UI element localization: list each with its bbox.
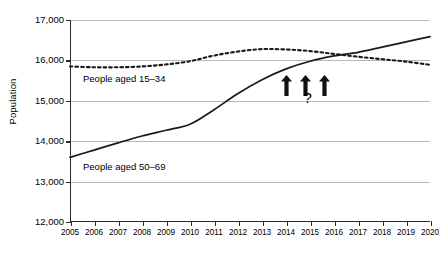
gridline: [71, 182, 430, 183]
gridline: [71, 141, 430, 142]
up-arrow-3-icon: [319, 75, 330, 96]
x-tick-mark: [71, 221, 72, 226]
y-axis-title: Population: [7, 62, 18, 142]
x-tick-mark: [287, 221, 288, 226]
y-tick-label: 12,000: [20, 217, 64, 227]
x-tick-mark: [95, 221, 96, 226]
y-tick-label: 16,000: [20, 55, 64, 65]
y-tick-label: 13,000: [20, 177, 64, 187]
y-tick-label: 14,000: [20, 136, 64, 146]
up-arrow-1-icon: [281, 75, 292, 96]
y-tick-mark: [66, 60, 71, 61]
x-tick-mark: [383, 221, 384, 226]
x-tick-label: 2020: [410, 228, 447, 237]
y-tick-mark: [66, 20, 71, 21]
y-tick-mark: [66, 182, 71, 183]
x-tick-mark: [431, 221, 432, 226]
y-tick-mark: [66, 141, 71, 142]
x-tick-mark: [263, 221, 264, 226]
x-tick-mark: [239, 221, 240, 226]
x-tick-mark: [167, 221, 168, 226]
x-tick-mark: [143, 221, 144, 226]
y-tick-label: 15,000: [20, 96, 64, 106]
series-label-people-aged-50-69: People aged 50–69: [83, 161, 165, 172]
y-tick-mark: [66, 101, 71, 102]
plot-area: [70, 20, 430, 222]
y-tick-label: 17,000: [20, 15, 64, 25]
x-tick-mark: [311, 221, 312, 226]
x-tick-mark: [407, 221, 408, 226]
y-axis-tick-labels: 17,00016,00015,00014,00013,00012,000: [20, 0, 64, 253]
x-tick-mark: [119, 221, 120, 226]
x-tick-mark: [215, 221, 216, 226]
x-tick-mark: [335, 221, 336, 226]
question-mark-annotation: ?: [304, 90, 312, 105]
gridline: [71, 20, 430, 21]
gridline: [71, 101, 430, 102]
series-label-people-aged-15-34: People aged 15–34: [83, 73, 165, 84]
x-tick-mark: [359, 221, 360, 226]
x-tick-mark: [191, 221, 192, 226]
gridline: [71, 60, 430, 61]
population-line-chart: Population 17,00016,00015,00014,00013,00…: [0, 0, 447, 253]
